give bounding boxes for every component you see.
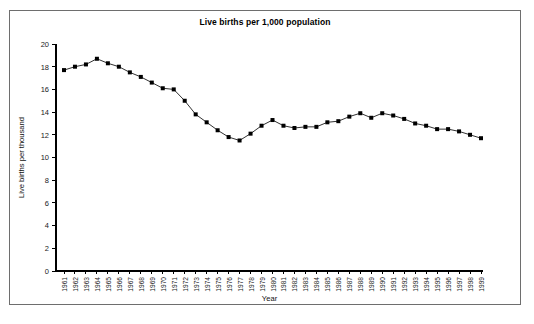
data-point — [402, 117, 406, 121]
y-tick-label: 10 — [41, 153, 49, 162]
x-tick-label: 1989 — [368, 277, 375, 292]
x-tick-label: 1995 — [434, 277, 441, 292]
data-point — [325, 120, 329, 124]
data-point — [106, 61, 110, 65]
data-point — [62, 68, 66, 72]
x-tick-label: 1991 — [390, 277, 397, 292]
data-point — [413, 121, 417, 125]
x-tick-label: 1975 — [215, 277, 222, 292]
x-tick-label: 1997 — [456, 277, 463, 292]
x-tick-label: 1978 — [248, 277, 255, 292]
x-tick-label: 1969 — [149, 277, 156, 292]
y-tick-label: 6 — [45, 199, 49, 208]
x-tick-label: 1970 — [160, 277, 167, 292]
data-point — [249, 132, 253, 136]
x-tick-label: 1980 — [270, 277, 277, 292]
x-tick-label: 1999 — [478, 277, 485, 292]
chart-plot-area: 02468101214161820 1961196219631964196519… — [10, 11, 522, 306]
data-point — [128, 70, 132, 74]
x-tick-label: 1994 — [423, 277, 430, 292]
y-tick-label: 18 — [41, 63, 49, 72]
data-point — [260, 124, 264, 128]
data-point — [435, 127, 439, 131]
x-axis-title: Year — [262, 294, 278, 303]
x-tick-label: 1961 — [61, 277, 68, 292]
data-point — [292, 126, 296, 130]
data-point — [161, 86, 165, 90]
x-tick-label: 1996 — [445, 277, 452, 292]
y-tick-label: 20 — [41, 40, 49, 49]
data-point — [183, 99, 187, 103]
x-tick-label: 1963 — [83, 277, 90, 292]
data-point — [424, 124, 428, 128]
y-tick-label: 2 — [45, 244, 49, 253]
data-point — [281, 124, 285, 128]
x-tick-label: 1981 — [280, 277, 287, 292]
data-point — [84, 62, 88, 66]
data-point — [391, 114, 395, 118]
data-point — [336, 119, 340, 123]
y-tick-label: 14 — [41, 108, 49, 117]
data-point — [150, 81, 154, 85]
x-tick-label: 1976 — [226, 277, 233, 292]
x-tick-label: 1987 — [346, 277, 353, 292]
x-tick-label: 1984 — [313, 277, 320, 292]
data-point — [380, 111, 384, 115]
x-tick-label: 1982 — [291, 277, 298, 292]
data-point — [216, 128, 220, 132]
data-point — [238, 138, 242, 142]
chart-figure: Live births per 1,000 population 0246810… — [9, 10, 521, 305]
x-tick-label: 1966 — [116, 277, 123, 292]
y-tick-label: 16 — [41, 85, 49, 94]
x-tick-label: 1985 — [324, 277, 331, 292]
x-tick-label: 1964 — [94, 277, 101, 292]
x-tick-label: 1993 — [412, 277, 419, 292]
data-point — [303, 125, 307, 129]
data-point — [95, 57, 99, 61]
x-tick-label: 1973 — [193, 277, 200, 292]
x-tick-label: 1986 — [335, 277, 342, 292]
data-point — [358, 111, 362, 115]
data-point — [446, 127, 450, 131]
data-point — [172, 87, 176, 91]
x-tick-label: 1971 — [171, 277, 178, 292]
x-tick-label: 1968 — [138, 277, 145, 292]
data-point — [314, 125, 318, 129]
data-point — [468, 133, 472, 137]
x-tick-label: 1962 — [72, 277, 79, 292]
x-tick-label: 1967 — [127, 277, 134, 292]
y-axis-ticks: 02468101214161820 — [41, 40, 56, 276]
y-axis-title: Live births per thousand — [17, 117, 26, 198]
y-tick-label: 4 — [45, 221, 49, 230]
data-point — [117, 65, 121, 69]
data-point — [194, 112, 198, 116]
x-tick-label: 1965 — [105, 277, 112, 292]
x-axis-ticks: 1961196219631964196519661967196819691970… — [61, 271, 485, 292]
y-tick-label: 0 — [45, 267, 49, 276]
data-point — [479, 136, 483, 140]
x-tick-label: 1983 — [302, 277, 309, 292]
x-tick-label: 1979 — [259, 277, 266, 292]
x-tick-label: 1990 — [379, 277, 386, 292]
data-point — [457, 129, 461, 133]
x-tick-label: 1998 — [467, 277, 474, 292]
x-tick-label: 1992 — [401, 277, 408, 292]
x-tick-label: 1977 — [237, 277, 244, 292]
data-point — [347, 115, 351, 119]
x-tick-label: 1972 — [182, 277, 189, 292]
data-point — [369, 116, 373, 120]
data-point — [271, 118, 275, 122]
data-series-line — [64, 59, 481, 141]
data-point — [139, 75, 143, 79]
x-tick-label: 1988 — [357, 277, 364, 292]
data-point — [227, 135, 231, 139]
x-tick-label: 1974 — [204, 277, 211, 292]
y-tick-label: 12 — [41, 131, 49, 140]
y-tick-label: 8 — [45, 176, 49, 185]
data-point — [73, 65, 77, 69]
data-point — [205, 120, 209, 124]
